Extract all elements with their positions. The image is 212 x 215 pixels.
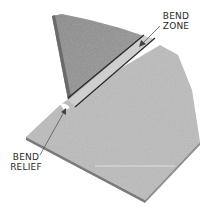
bend-zone-label-line2: ZONE [156, 21, 196, 31]
bend-relief-label: BEND RELIEF [4, 152, 48, 172]
bend-relief-label-line2: RELIEF [4, 162, 48, 172]
bend-zone-label: BEND ZONE [156, 11, 196, 31]
sheet-metal-diagram [0, 0, 212, 215]
bend-relief-label-line1: BEND [4, 152, 48, 162]
bend-zone-label-line1: BEND [156, 11, 196, 21]
